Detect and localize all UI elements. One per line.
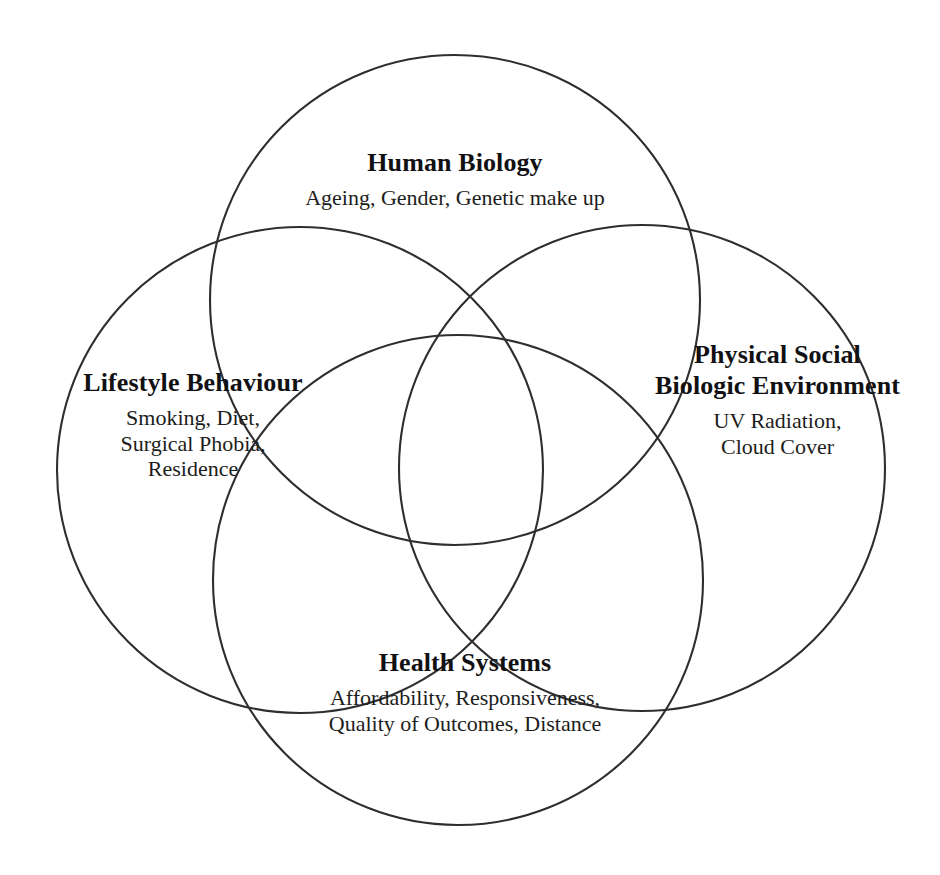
label-health-systems-title: Health Systems	[260, 648, 670, 678]
venn-diagram: Human Biology Ageing, Gender, Genetic ma…	[0, 0, 940, 875]
label-lifestyle-behaviour-title-line-1: Behaviour	[186, 368, 302, 397]
label-lifestyle-behaviour-item-2: Residence	[78, 456, 308, 482]
label-environment-item-0: UV Radiation,	[655, 408, 900, 434]
label-human-biology-items: Ageing, Gender, Genetic make up	[255, 185, 655, 211]
label-lifestyle-behaviour: Lifestyle Behaviour Smoking, Diet, Surgi…	[78, 368, 308, 482]
label-lifestyle-behaviour-title: Lifestyle Behaviour	[78, 368, 308, 398]
label-human-biology-item-0: Ageing, Gender, Genetic make up	[255, 185, 655, 211]
label-environment-item-1: Cloud Cover	[655, 434, 900, 460]
label-environment-title-line-0: Physical	[694, 340, 787, 369]
label-lifestyle-behaviour-item-0: Smoking, Diet,	[78, 405, 308, 431]
label-environment-title-line-2: Biologic	[655, 371, 745, 400]
label-human-biology: Human Biology Ageing, Gender, Genetic ma…	[255, 148, 655, 211]
label-human-biology-title: Human Biology	[255, 148, 655, 178]
label-environment: Physical Social Biologic Environment UV …	[655, 340, 900, 459]
label-health-systems-item-0: Affordability, Responsiveness,	[260, 685, 670, 711]
label-health-systems-items: Affordability, Responsiveness, Quality o…	[260, 685, 670, 736]
label-health-systems-item-1: Quality of Outcomes, Distance	[260, 711, 670, 737]
label-lifestyle-behaviour-title-line-0: Lifestyle	[83, 368, 179, 397]
label-environment-title: Physical Social Biologic Environment	[655, 340, 900, 401]
label-health-systems: Health Systems Affordability, Responsive…	[260, 648, 670, 736]
label-environment-items: UV Radiation, Cloud Cover	[655, 408, 900, 459]
label-environment-title-line-1: Social	[794, 340, 861, 369]
label-environment-title-line-3: Environment	[752, 371, 900, 400]
label-lifestyle-behaviour-item-1: Surgical Phobia,	[78, 431, 308, 457]
label-lifestyle-behaviour-items: Smoking, Diet, Surgical Phobia, Residenc…	[78, 405, 308, 482]
